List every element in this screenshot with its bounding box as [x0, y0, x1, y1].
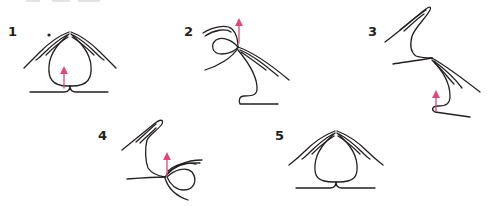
hands-outline — [385, 7, 480, 117]
hands-outline — [122, 120, 202, 200]
step-3: 3 — [368, 7, 480, 117]
hands-outline — [24, 32, 116, 92]
step-4: 4 — [98, 120, 202, 200]
finger-sequence-diagram: 1 2 — [0, 0, 487, 207]
step-5-label: 5 — [275, 128, 284, 143]
marker-dot — [47, 33, 50, 36]
hands-outline — [203, 26, 289, 104]
step-2-label: 2 — [184, 24, 193, 39]
step-1: 1 — [8, 24, 116, 92]
step-3-label: 3 — [368, 24, 377, 39]
step-1-label: 1 — [8, 24, 17, 39]
hands-outline — [289, 131, 383, 188]
step-2: 2 — [184, 22, 289, 104]
step-4-label: 4 — [98, 128, 107, 143]
step-5: 5 — [275, 128, 383, 188]
